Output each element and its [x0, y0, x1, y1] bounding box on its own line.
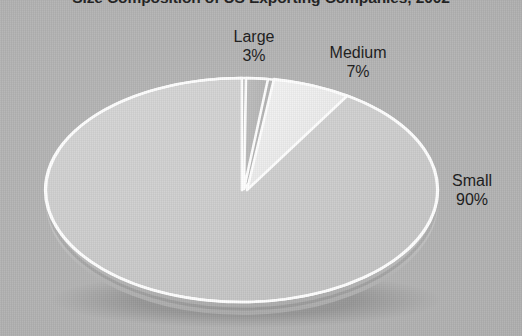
pie-label-medium: Medium 7% — [303, 44, 413, 81]
pie-label-medium-percent: 7% — [303, 63, 413, 82]
pie-label-small: Small 90% — [432, 172, 512, 209]
pie-label-small-percent: 90% — [432, 191, 512, 210]
pie-label-large-percent: 3% — [208, 47, 300, 66]
chart-canvas: Size Composition of US Exporting Compani… — [0, 0, 522, 336]
pie-label-small-name: Small — [432, 172, 512, 191]
page-title: Size Composition of US Exporting Compani… — [0, 0, 522, 7]
pie-label-large: Large 3% — [208, 28, 300, 65]
pie-label-medium-name: Medium — [303, 44, 413, 63]
pie-label-large-name: Large — [208, 28, 300, 47]
